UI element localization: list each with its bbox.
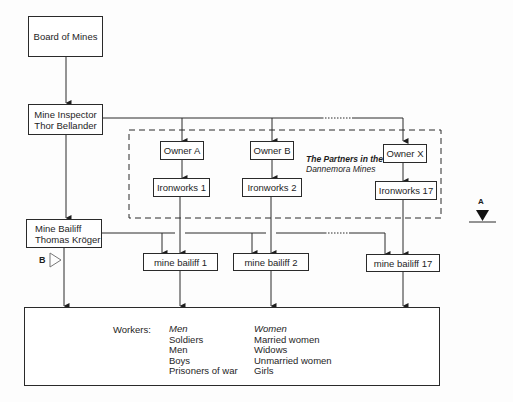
board-of-mines-box: Board of Mines [28, 16, 103, 57]
mine-bailiff-17-box: mine bailiff 17 [366, 254, 440, 272]
workers-men-title: Men [169, 324, 238, 335]
owner-b-box: Owner B [250, 141, 294, 160]
workers-women-title: Women [254, 324, 332, 335]
workers-women-item: Girls [254, 366, 332, 377]
organization-diagram: Board of Mines Mine Inspector Thor Bella… [0, 0, 513, 402]
owner-x-label: Owner X [387, 148, 424, 159]
mine-bailiff-2-label: mine bailiff 2 [244, 257, 297, 268]
marker-a-label: A [478, 196, 484, 207]
workers-men-column: Men Soldiers Men Boys Prisoners of war [169, 324, 238, 377]
ironworks-1-label: Ironworks 1 [157, 182, 206, 193]
mine-inspector-title: Mine Inspector [34, 109, 96, 120]
mine-bailiff-box: Mine Bailiff Thomas Kröger [26, 219, 102, 248]
workers-heading: Workers: [113, 324, 151, 335]
partners-group-label: The Partners in the Dannemora Mines [306, 154, 383, 174]
partners-label-line-2: Dannemora Mines [306, 164, 383, 174]
workers-women-item: Widows [254, 345, 332, 356]
partners-label-line-1: The Partners in the [306, 154, 383, 164]
owner-b-label: Owner B [254, 145, 291, 156]
owner-a-box: Owner A [160, 141, 204, 160]
mine-inspector-name: Thor Bellander [34, 120, 96, 131]
ironworks-1-box: Ironworks 1 [153, 178, 210, 197]
board-of-mines-label: Board of Mines [34, 31, 98, 42]
mine-inspector-box: Mine Inspector Thor Bellander [28, 104, 103, 135]
mine-bailiff-1-label: mine bailiff 1 [154, 257, 207, 268]
ironworks-17-box: Ironworks 17 [375, 181, 437, 200]
mine-bailiff-17-label: mine bailiff 17 [374, 258, 432, 269]
mine-bailiff-1-box: mine bailiff 1 [143, 253, 218, 271]
owner-x-box: Owner X [383, 144, 427, 163]
mine-bailiff-2-box: mine bailiff 2 [233, 253, 309, 271]
marker-b-triangle-icon [50, 253, 61, 267]
workers-men-item: Prisoners of war [169, 366, 238, 377]
ironworks-17-label: Ironworks 17 [379, 185, 433, 196]
owner-a-label: Owner A [164, 145, 200, 156]
workers-women-column: Women Married women Widows Unmarried wom… [254, 324, 332, 377]
mine-bailiff-name: Thomas Kröger [35, 234, 100, 245]
ironworks-2-label: Ironworks 2 [247, 182, 296, 193]
ironworks-2-box: Ironworks 2 [242, 178, 302, 197]
marker-b-label: B [39, 255, 46, 266]
workers-men-item: Men [169, 345, 238, 356]
mine-bailiff-title: Mine Bailiff [35, 223, 81, 234]
marker-a-triangle-icon [476, 210, 489, 221]
